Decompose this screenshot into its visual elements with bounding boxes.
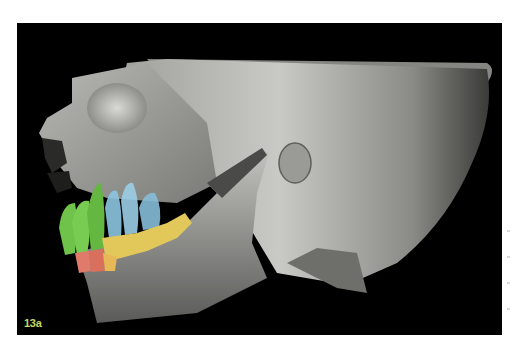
margin-bleed-marks (507, 230, 513, 340)
orbit (87, 83, 147, 133)
figure-label: 13a (24, 317, 41, 329)
ct-figure: 13a (17, 23, 502, 335)
tooth-upper-canine (87, 183, 105, 251)
tooth-lower-incisor (89, 249, 105, 272)
skull-rendering (17, 23, 502, 335)
tooth-lower-incisor (75, 251, 91, 273)
ear-region (279, 143, 311, 183)
